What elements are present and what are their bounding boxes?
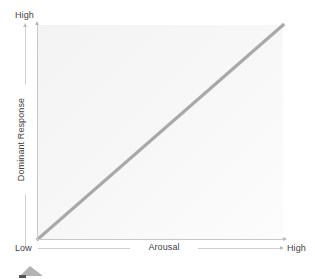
arrow-up-icon-outer: [23, 23, 27, 27]
trend-line-series: [38, 25, 283, 239]
triangle-marker-icon: [19, 263, 45, 279]
x-axis-low-label: Low: [15, 243, 32, 254]
y-axis-line: [37, 25, 38, 239]
plot-area: [38, 25, 283, 239]
y-axis-high-label: High: [15, 10, 34, 21]
arrow-right-icon-outer: [280, 246, 284, 250]
x-axis-line: [37, 239, 285, 240]
arrow-right-icon: [283, 237, 287, 241]
x-axis-title: Arousal: [130, 242, 198, 253]
dominant-response-line: [38, 25, 283, 239]
y-axis-title: Dominant Response: [14, 85, 29, 195]
x-axis-high-label: High: [287, 243, 306, 254]
arrow-up-icon: [35, 21, 39, 25]
